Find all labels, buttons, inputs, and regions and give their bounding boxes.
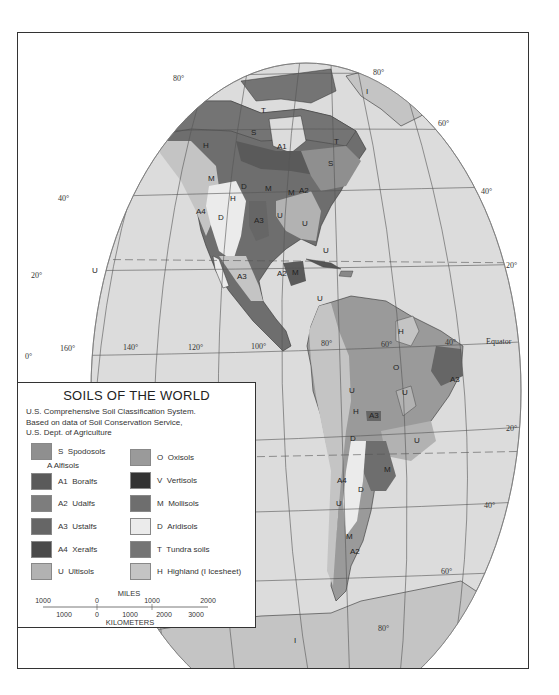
svg-text:H: H [203, 141, 209, 150]
svg-text:A3: A3 [450, 375, 460, 384]
legend-box: SOILS OF THE WORLD U.S. Comprehensive So… [17, 382, 256, 628]
svg-text:A2: A2 [277, 269, 287, 278]
svg-text:1000: 1000 [56, 611, 72, 618]
svg-text:U: U [92, 266, 98, 275]
svg-text:1000: 1000 [35, 597, 51, 604]
svg-text:U: U [317, 294, 323, 303]
svg-text:S: S [251, 128, 256, 137]
svg-text:U: U [349, 386, 355, 395]
svg-text:M: M [292, 268, 299, 277]
svg-text:A3: A3 [369, 411, 379, 420]
svg-text:U: U [336, 499, 342, 508]
svg-text:80°: 80° [321, 339, 332, 348]
svg-text:MILES: MILES [118, 589, 141, 598]
svg-text:2000: 2000 [200, 597, 216, 604]
svg-text:S: S [328, 159, 333, 168]
svg-text:D: D [241, 182, 247, 191]
svg-text:80°: 80° [173, 74, 184, 83]
svg-text:60°: 60° [441, 567, 452, 576]
svg-text:40°: 40° [481, 187, 492, 196]
svg-text:D: D [350, 434, 356, 443]
svg-text:I: I [366, 87, 368, 96]
svg-text:M: M [208, 174, 215, 183]
svg-text:1000: 1000 [122, 611, 138, 618]
svg-text:A2: A2 [299, 186, 309, 195]
svg-text:U: U [402, 388, 408, 397]
svg-text:60°: 60° [438, 119, 449, 128]
svg-text:T: T [261, 106, 266, 115]
svg-text:T: T [334, 137, 339, 146]
svg-text:1000: 1000 [144, 597, 160, 604]
svg-text:60°: 60° [381, 340, 392, 349]
svg-text:M: M [265, 184, 272, 193]
svg-text:KILOMETERS: KILOMETERS [106, 618, 154, 627]
svg-text:M: M [384, 465, 391, 474]
svg-text:3000: 3000 [188, 611, 204, 618]
svg-text:20°: 20° [506, 424, 517, 433]
svg-text:I: I [294, 636, 296, 645]
svg-text:100°: 100° [251, 342, 266, 351]
svg-text:U: U [323, 246, 329, 255]
svg-text:A4: A4 [196, 207, 206, 216]
svg-text:U: U [302, 219, 308, 228]
svg-text:O: O [393, 363, 399, 372]
svg-text:H: H [230, 194, 236, 203]
svg-text:A2: A2 [350, 547, 360, 556]
svg-text:H: H [398, 327, 404, 336]
svg-text:A3: A3 [254, 216, 264, 225]
svg-text:120°: 120° [188, 343, 203, 352]
svg-text:0°: 0° [25, 352, 32, 361]
svg-text:A1: A1 [277, 142, 287, 151]
svg-text:0: 0 [95, 611, 99, 618]
svg-text:U: U [277, 211, 283, 220]
svg-text:D: D [218, 213, 224, 222]
svg-text:0: 0 [95, 597, 99, 604]
scale-bar: MILES 1000 0 1000 2000 1000 0 1000 2000 … [18, 383, 257, 629]
svg-text:2000: 2000 [156, 611, 172, 618]
svg-text:A4: A4 [337, 476, 347, 485]
svg-text:Equator: Equator [486, 337, 512, 346]
svg-text:A3: A3 [237, 272, 247, 281]
svg-text:40°: 40° [484, 501, 495, 510]
svg-text:80°: 80° [378, 624, 389, 633]
svg-text:40°: 40° [58, 194, 69, 203]
svg-text:U: U [414, 436, 420, 445]
svg-text:40°: 40° [445, 338, 456, 347]
svg-text:M: M [288, 188, 295, 197]
svg-text:D: D [358, 485, 364, 494]
svg-text:80°: 80° [373, 68, 384, 77]
svg-text:H: H [353, 407, 359, 416]
svg-text:20°: 20° [31, 271, 42, 280]
svg-text:M: M [346, 532, 353, 541]
svg-text:140°: 140° [123, 343, 138, 352]
svg-text:160°: 160° [60, 344, 75, 353]
svg-text:20°: 20° [506, 261, 517, 270]
